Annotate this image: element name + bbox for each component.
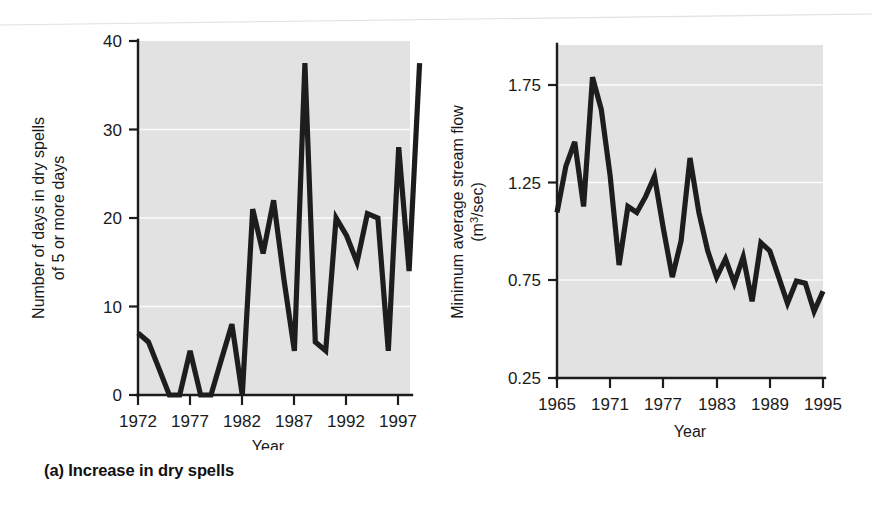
x-tick-label-b-1965: 1965 [538, 395, 576, 414]
y-tick-label-b-175: 1.75 [508, 76, 541, 95]
stream-flow-chart: 1.75 1.25 0.75 0.25 1965 1971 1977 1983 … [436, 0, 872, 450]
y-axis-title-b-line2: (m3/sec) [468, 182, 486, 241]
dry-spells-chart: 40 30 20 10 0 1972 1977 1982 1987 1992 1… [0, 0, 436, 450]
y-tick-label-a-20: 20 [103, 209, 122, 228]
chart-panel-b: 1.75 1.25 0.75 0.25 1965 1971 1977 1983 … [436, 0, 872, 510]
y-axis-title-a-line1: Number of days in dry spells [30, 117, 47, 319]
x-axis-title-a: Year [252, 438, 285, 450]
x-ticks-b [557, 378, 823, 388]
x-tick-label-b-1983: 1983 [698, 395, 736, 414]
x-tick-label-a-1992: 1992 [327, 412, 365, 431]
chart-panel-a: 40 30 20 10 0 1972 1977 1982 1987 1992 1… [0, 0, 436, 510]
caption-a: (a) Increase in dry spells [44, 461, 234, 480]
x-tick-label-a-1997: 1997 [379, 412, 417, 431]
x-tick-label-b-1977: 1977 [644, 395, 682, 414]
y-tick-label-b-025: 0.25 [508, 369, 541, 388]
y-tick-label-b-075: 0.75 [508, 271, 541, 290]
x-tick-label-a-1987: 1987 [275, 412, 313, 431]
x-axis-title-b: Year [674, 423, 707, 440]
x-tick-label-b-1989: 1989 [751, 395, 789, 414]
y-axis-title-a-line2: of 5 or more days [50, 156, 67, 281]
x-tick-label-a-1977: 1977 [171, 412, 209, 431]
y-axis-title-b-line1: Minimum average stream flow [449, 105, 466, 319]
x-tick-label-b-1995: 1995 [804, 395, 842, 414]
y-tick-label-b-125: 1.25 [508, 174, 541, 193]
y-ticks-a [129, 41, 138, 395]
y-tick-label-a-30: 30 [103, 121, 122, 140]
x-tick-label-b-1971: 1971 [591, 395, 629, 414]
x-tick-label-a-1972: 1972 [119, 412, 157, 431]
y-ticks-b [548, 85, 557, 378]
x-tick-label-a-1982: 1982 [223, 412, 261, 431]
figure-root: 40 30 20 10 0 1972 1977 1982 1987 1992 1… [0, 0, 872, 510]
y-tick-label-a-0: 0 [113, 386, 122, 405]
y-axis-unit-base: (m [469, 223, 486, 242]
y-tick-label-a-10: 10 [103, 298, 122, 317]
y-axis-unit-tail: /sec) [469, 182, 486, 217]
y-tick-label-a-40: 40 [103, 32, 122, 51]
